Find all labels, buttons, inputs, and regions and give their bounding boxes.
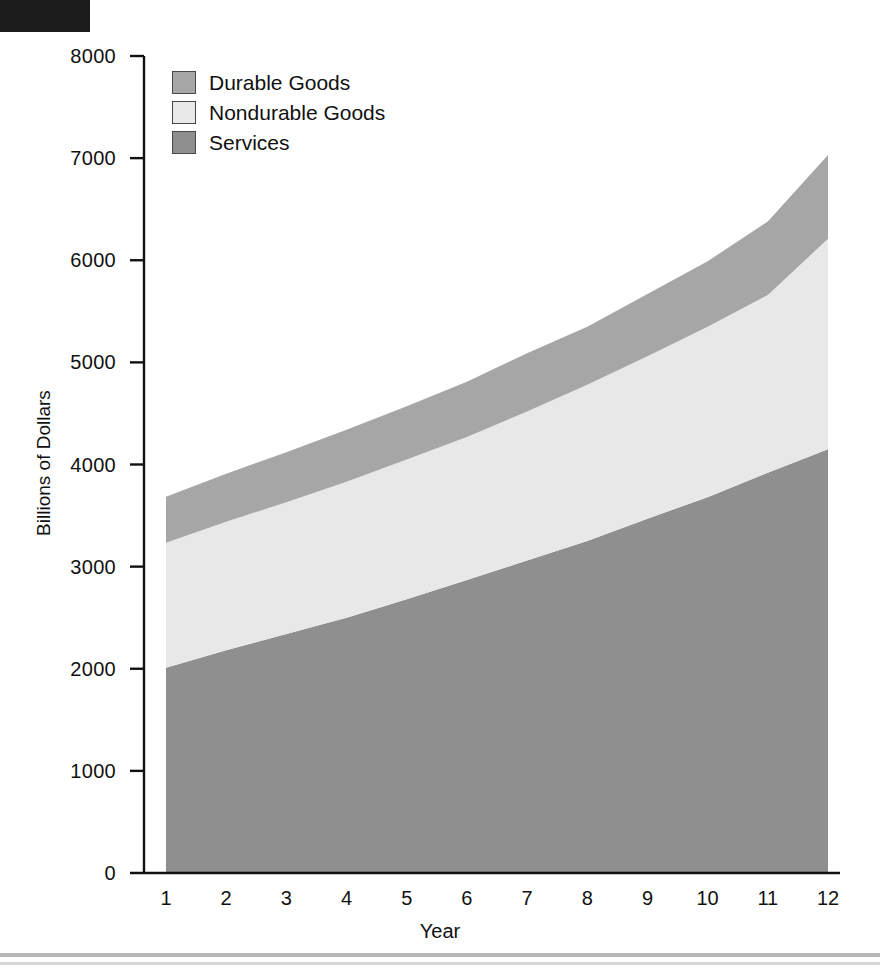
y-axis-tick-label: 6000: [30, 250, 116, 270]
y-axis-ticks-group: [130, 56, 144, 771]
area-series-group: [166, 155, 828, 873]
legend-item: Nondurable Goods: [172, 98, 472, 126]
x-axis-tick-label: 4: [327, 888, 367, 908]
x-axis-title: Year: [0, 920, 880, 943]
y-axis-title: Billions of Dollars: [33, 333, 55, 593]
x-axis-tick-label: 7: [507, 888, 547, 908]
x-axis-tick-label: 2: [206, 888, 246, 908]
figure-page: 010002000300040005000600070008000 123456…: [0, 0, 880, 973]
x-axis-tick-label: 1: [146, 888, 186, 908]
page-footer-rule-secondary: [0, 962, 880, 965]
legend-item-label: Durable Goods: [209, 72, 350, 93]
legend-swatch-icon: [172, 71, 196, 94]
x-axis-tick-label: 9: [627, 888, 667, 908]
legend-item-label: Nondurable Goods: [209, 102, 385, 123]
x-axis-tick-label: 11: [748, 888, 788, 908]
legend-swatch-icon: [172, 131, 196, 154]
x-axis-tick-label: 5: [387, 888, 427, 908]
page-footer-rule: [0, 953, 880, 957]
x-axis-tick-label: 10: [688, 888, 728, 908]
legend-item: Durable Goods: [172, 68, 472, 96]
legend-swatch-icon: [172, 101, 196, 124]
legend-item-label: Services: [209, 132, 290, 153]
y-axis-tick-label: 1000: [30, 761, 116, 781]
y-axis-tick-label: 0: [30, 863, 116, 883]
legend-item: Services: [172, 128, 472, 156]
x-axis-tick-label: 3: [266, 888, 306, 908]
y-axis-tick-label: 8000: [30, 46, 116, 66]
y-axis-tick-label: 7000: [30, 148, 116, 168]
x-axis-tick-label: 12: [808, 888, 848, 908]
stacked-area-chart: 010002000300040005000600070008000 123456…: [0, 0, 880, 973]
x-axis-tick-label: 6: [447, 888, 487, 908]
x-axis-tick-label: 8: [567, 888, 607, 908]
chart-legend: Durable GoodsNondurable GoodsServices: [172, 68, 472, 158]
y-axis-tick-label: 2000: [30, 659, 116, 679]
